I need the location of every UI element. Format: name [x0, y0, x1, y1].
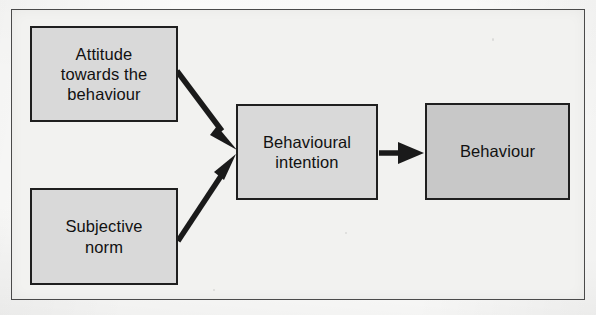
- node-subjective-norm-label: Subjective norm: [32, 216, 176, 256]
- node-subjective-norm: Subjective norm: [30, 188, 178, 285]
- node-attitude-label: Attitude towards the behaviour: [32, 44, 176, 104]
- node-behavioural-intention-label: Behavioural intention: [238, 132, 376, 172]
- node-behaviour: Behaviour: [425, 103, 570, 200]
- node-behaviour-label: Behaviour: [427, 141, 568, 161]
- node-attitude: Attitude towards the behaviour: [30, 26, 178, 122]
- diagram-canvas: Attitude towards the behaviour Subjectiv…: [0, 0, 596, 315]
- node-behavioural-intention: Behavioural intention: [236, 104, 378, 200]
